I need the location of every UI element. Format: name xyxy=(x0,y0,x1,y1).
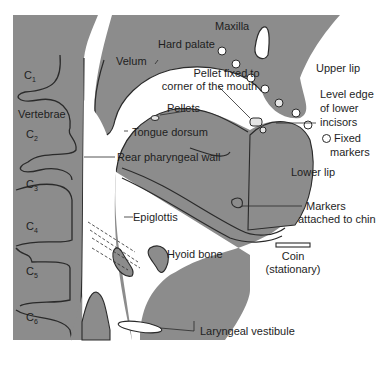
pellets-label: Pellets xyxy=(167,102,200,115)
coin-label-line2: (stationary) xyxy=(262,263,324,276)
level-edge-label-line3: incisors xyxy=(320,116,357,129)
upper-lip-label: Upper lip xyxy=(316,62,360,75)
vertebra-c2: C2 xyxy=(26,128,38,145)
vocal-tract-diagram xyxy=(0,0,383,371)
pellet-fixed-label-line1: Pellet fixed to xyxy=(159,67,294,80)
vertebra-c1: C1 xyxy=(24,69,36,86)
vertebra-c4: C4 xyxy=(26,220,38,237)
coin xyxy=(276,243,310,247)
markers-chin-label-line1: Markers xyxy=(306,200,346,213)
velum-label: Velum xyxy=(116,55,147,68)
fixed-markers-label-line1: Fixed xyxy=(322,132,361,145)
vertebra-c6: C6 xyxy=(26,311,38,328)
pellet-fixed-label-line2: corner of the mouth xyxy=(142,80,277,93)
vertebra-c5: C5 xyxy=(26,265,38,282)
rear-pharyngeal-wall-label: Rear pharyngeal wall xyxy=(117,151,220,164)
hyoid-bone-label: Hyoid bone xyxy=(167,248,223,261)
epiglottis-label: Epiglottis xyxy=(133,211,178,224)
markers-chin-label-line2: attached to chin xyxy=(298,213,376,226)
laryngeal-vestibule-label: Laryngeal vestibule xyxy=(200,325,295,338)
tongue-dorsum-label: Tongue dorsum xyxy=(132,126,208,139)
vertebrae-label: Vertebrae xyxy=(18,108,66,121)
level-edge-label-line2: of lower xyxy=(320,102,359,115)
level-edge-label-line1: Level edge xyxy=(320,88,374,101)
hard-palate-label: Hard palate xyxy=(158,38,215,51)
fixed-marker-icon xyxy=(322,134,331,143)
vertebra-c3: C3 xyxy=(26,178,38,195)
maxilla-label: Maxilla xyxy=(215,20,249,33)
hyoid-bone-shape xyxy=(148,246,168,272)
coin-label-line1: Coin xyxy=(262,250,324,263)
lower-lip-label: Lower lip xyxy=(291,166,335,179)
fixed-markers-label-line2: markers xyxy=(330,146,370,159)
